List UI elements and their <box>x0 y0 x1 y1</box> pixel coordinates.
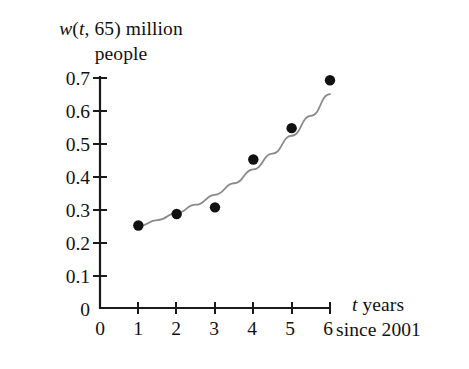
fitted-curve <box>138 94 330 226</box>
data-point-3 <box>210 202 220 212</box>
data-point-5 <box>286 123 296 133</box>
chart-figure: w(t, 65) million people t years since 20… <box>0 0 469 369</box>
data-point-6 <box>325 75 335 85</box>
data-point-2 <box>171 209 181 219</box>
data-point-group <box>133 75 335 231</box>
axis-lines <box>99 76 331 309</box>
plot-canvas <box>0 0 469 369</box>
data-point-1 <box>133 220 143 230</box>
data-point-4 <box>248 154 258 164</box>
